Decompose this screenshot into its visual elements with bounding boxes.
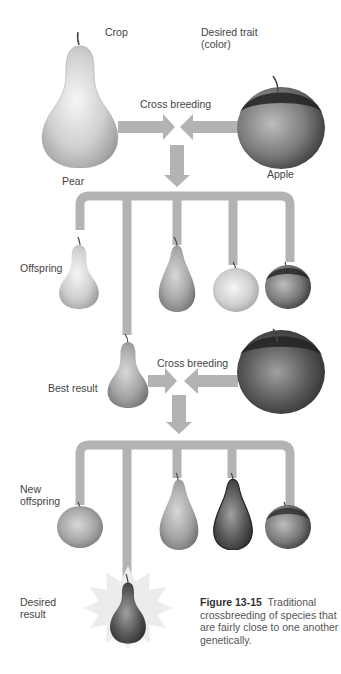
pear-label: Pear [62,175,84,187]
apple-label: Apple [267,168,294,180]
desired-result-label-line2: result [20,608,46,620]
figure-caption: Figure 13-15 Traditional crossbreeding o… [200,596,340,646]
new-offspring-pear-1-icon [160,473,199,550]
new-offspring-apple-2-icon [265,502,311,549]
offspring-pear-1-icon [59,237,99,309]
offspring-label: Offspring [20,262,62,274]
best-result-pear-icon [108,334,149,408]
new-offspring-apple-1-icon [57,502,103,548]
new-offspring-pear-2-icon [214,473,253,550]
new-offspring-label-line2: offspring [20,495,60,507]
cross-breeding-arrows-1 [118,114,238,187]
figure-number: Figure 13-15 [200,596,262,608]
new-offspring-label-line1: New [20,483,41,495]
cross-breeding-label-1: Cross breeding [140,98,211,110]
pear-crop-icon [42,32,118,168]
best-result-label: Best result [48,382,98,394]
cross-breeding-label-2: Cross breeding [157,357,228,369]
crop-label: Crop [105,26,128,38]
desired-trait-label: Desired trait [201,26,258,38]
offspring-apple-dark-icon [265,262,311,309]
cross-breeding-arrows-2 [148,368,238,434]
desired-result-label-line1: Desired [20,596,56,608]
offspring-apple-light-icon [213,262,259,312]
apple-desired-trait-2-icon [237,329,325,414]
offspring-pear-2-icon [159,237,196,312]
desired-trait-color-label: (color) [201,38,231,50]
apple-desired-trait-icon [237,76,325,169]
